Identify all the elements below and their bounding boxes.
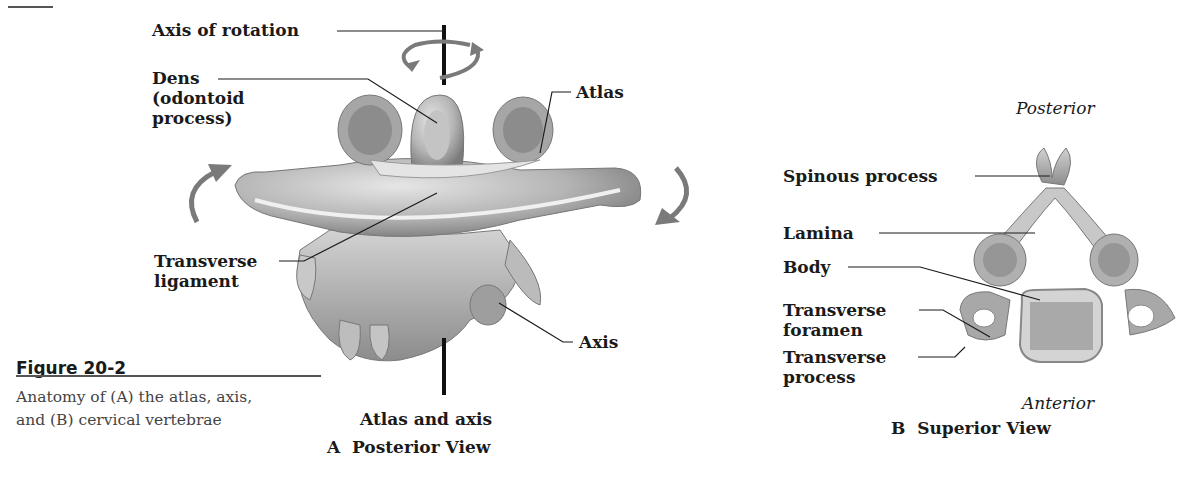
label-dens: Dens — [152, 68, 200, 88]
label-axis: Axis — [579, 332, 618, 352]
atlas-axis-illustration — [235, 95, 641, 361]
label-transverse-ligament: Transverse — [154, 251, 257, 271]
cervical-vertebra-illustration — [960, 148, 1175, 362]
label-transverse-process-line2: process — [783, 367, 856, 387]
panel-a-subtitle: Atlas and axis — [360, 409, 492, 429]
label-dens-line3: process) — [152, 108, 233, 128]
label-body: Body — [783, 257, 830, 277]
rotation-arrows-icon — [404, 42, 479, 79]
rotation-arrow-right-icon — [670, 168, 687, 218]
rotation-arrow-left-icon — [191, 172, 215, 222]
label-axis-of-rotation: Axis of rotation — [152, 20, 299, 40]
figure-caption: Anatomy of (A) the atlas, axis, and (B) … — [16, 386, 276, 432]
label-transverse-foramen-line2: foramen — [783, 320, 863, 340]
label-transverse-foramen: Transverse — [783, 300, 886, 320]
label-lamina: Lamina — [783, 223, 854, 243]
label-dens-line2: (odontoid — [152, 88, 245, 108]
label-spinous-process: Spinous process — [783, 166, 938, 186]
label-atlas: Atlas — [576, 82, 624, 102]
panel-b-title: B Superior View — [891, 418, 1051, 438]
label-transverse-ligament-line2: ligament — [154, 271, 239, 291]
panel-a-title: A Posterior View — [327, 437, 490, 457]
orientation-posterior: Posterior — [1016, 98, 1095, 118]
caption-divider — [16, 375, 321, 377]
label-transverse-process: Transverse — [783, 347, 886, 367]
orientation-anterior: Anterior — [1022, 393, 1094, 413]
